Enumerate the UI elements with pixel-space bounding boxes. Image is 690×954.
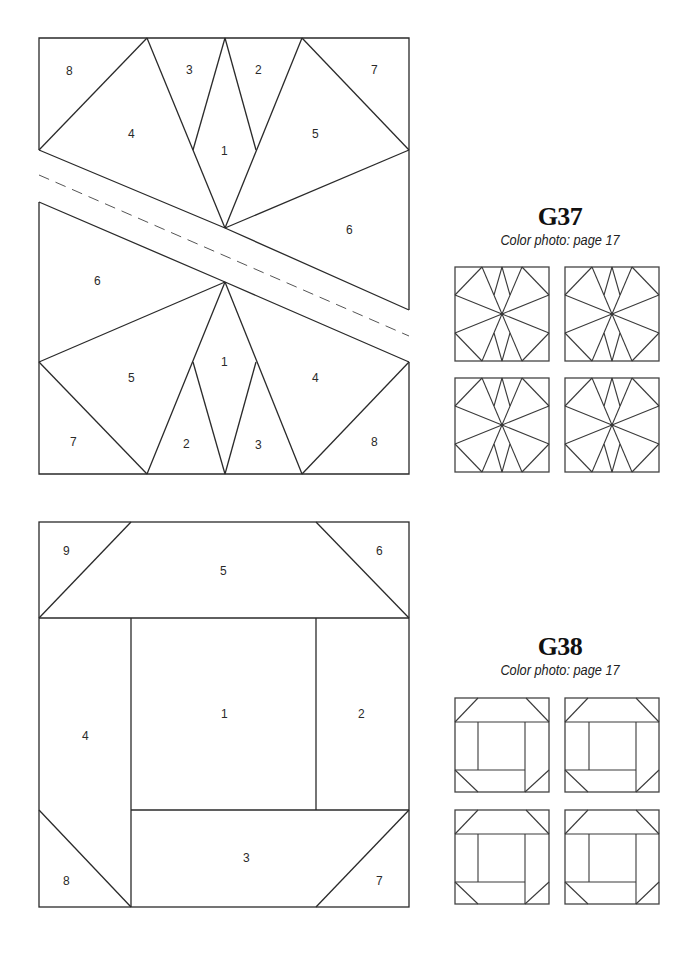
- g37-label-bottom-8: 8: [371, 435, 378, 449]
- g37-label-bottom-5: 5: [128, 371, 135, 385]
- g38-piece-labels: 9 5 6 4 1 2 8 3 7: [63, 544, 383, 888]
- g37-label-bottom-6: 6: [94, 274, 101, 288]
- g38-thumbnails: [455, 698, 659, 904]
- g38-label-7: 7: [376, 874, 383, 888]
- g38-block-code: G38: [440, 633, 680, 661]
- g37-label-bottom-1: 1: [221, 355, 228, 369]
- g37-label-top-8: 8: [66, 64, 73, 78]
- g37-label-top-2: 2: [255, 63, 262, 77]
- g38-thumbnail-1: [455, 698, 549, 792]
- g38-label-6: 6: [376, 544, 383, 558]
- g38-title-group: G38 Color photo: page 17: [440, 633, 680, 679]
- g37-top-section: [39, 38, 409, 310]
- g37-foundation-pattern: 8 3 2 7 4 1 5 6 6 1 5 4 7 2 3 8: [0, 0, 690, 954]
- g38-label-1: 1: [221, 707, 228, 721]
- g38-label-8: 8: [63, 874, 70, 888]
- g38-label-3: 3: [243, 851, 250, 865]
- g37-label-top-3: 3: [186, 63, 193, 77]
- g37-thumbnail-2: [565, 267, 659, 361]
- g37-label-top-7: 7: [371, 63, 378, 77]
- g37-label-bottom-7: 7: [70, 435, 77, 449]
- g37-thumbnails: [455, 267, 659, 472]
- g37-label-top-6: 6: [346, 223, 353, 237]
- g37-bottom-section: [39, 202, 409, 474]
- g37-thumbnail-3: [455, 378, 549, 472]
- g38-label-2: 2: [358, 707, 365, 721]
- g37-label-bottom-4: 4: [312, 371, 319, 385]
- g37-block-code: G37: [440, 203, 680, 231]
- g37-color-photo-reference: Color photo: page 17: [454, 231, 665, 249]
- g38-label-5: 5: [220, 564, 227, 578]
- g37-thumbnail-1: [455, 267, 549, 361]
- g37-thumbnail-4: [565, 378, 659, 472]
- g37-seam-line: [39, 175, 409, 336]
- g38-thumbnail-3: [455, 810, 549, 904]
- g38-label-9: 9: [63, 544, 70, 558]
- g37-label-top-1: 1: [221, 144, 228, 158]
- g37-label-top-4: 4: [128, 127, 135, 141]
- g37-label-bottom-3: 3: [255, 438, 262, 452]
- g37-label-top-5: 5: [312, 127, 319, 141]
- g37-title-group: G37 Color photo: page 17: [440, 203, 680, 249]
- g37-piece-labels: 8 3 2 7 4 1 5 6 6 1 5 4 7 2 3 8: [66, 63, 378, 452]
- g38-thumbnail-4: [565, 810, 659, 904]
- g38-color-photo-reference: Color photo: page 17: [454, 661, 665, 679]
- g38-label-4: 4: [82, 729, 89, 743]
- g37-label-bottom-2: 2: [183, 437, 190, 451]
- g38-thumbnail-2: [565, 698, 659, 792]
